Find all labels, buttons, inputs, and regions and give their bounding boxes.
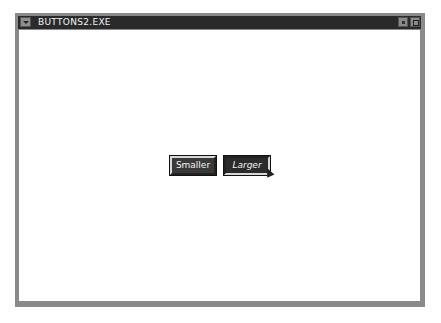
window-title: BUTTONS2.EXE xyxy=(38,16,111,29)
larger-button[interactable]: Larger xyxy=(224,156,270,175)
minimize-icon[interactable] xyxy=(398,17,408,27)
app-window: BUTTONS2.EXE xyxy=(15,13,425,307)
maximize-icon[interactable] xyxy=(410,17,420,27)
smaller-button[interactable]: Smaller xyxy=(170,156,216,175)
title-bar[interactable]: BUTTONS2.EXE xyxy=(18,16,421,29)
system-menu-icon[interactable] xyxy=(20,17,31,27)
client-area xyxy=(19,30,420,301)
